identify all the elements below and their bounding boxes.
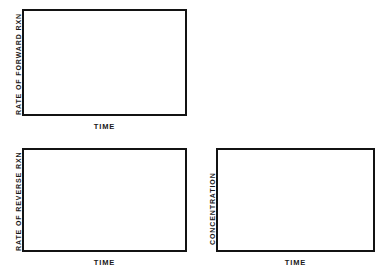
plot-area-forward-rate[interactable] bbox=[22, 9, 187, 116]
y-axis-label-reverse-rate: RATE OF REVERSE RXN bbox=[15, 152, 22, 251]
x-axis-label-reverse-rate: TIME bbox=[22, 259, 187, 267]
y-axis-label-concentration: CONCENTRATION bbox=[209, 172, 216, 245]
plot-area-concentration[interactable] bbox=[216, 148, 375, 252]
y-axis-label-forward-rate: RATE OF FORWARD RXN bbox=[15, 13, 22, 115]
x-axis-label-concentration: TIME bbox=[216, 259, 375, 267]
x-axis-label-forward-rate: TIME bbox=[22, 123, 187, 131]
worksheet-page: { "chart_data": [ { "type": "line", "id"… bbox=[0, 0, 390, 273]
plot-area-reverse-rate[interactable] bbox=[22, 148, 187, 252]
